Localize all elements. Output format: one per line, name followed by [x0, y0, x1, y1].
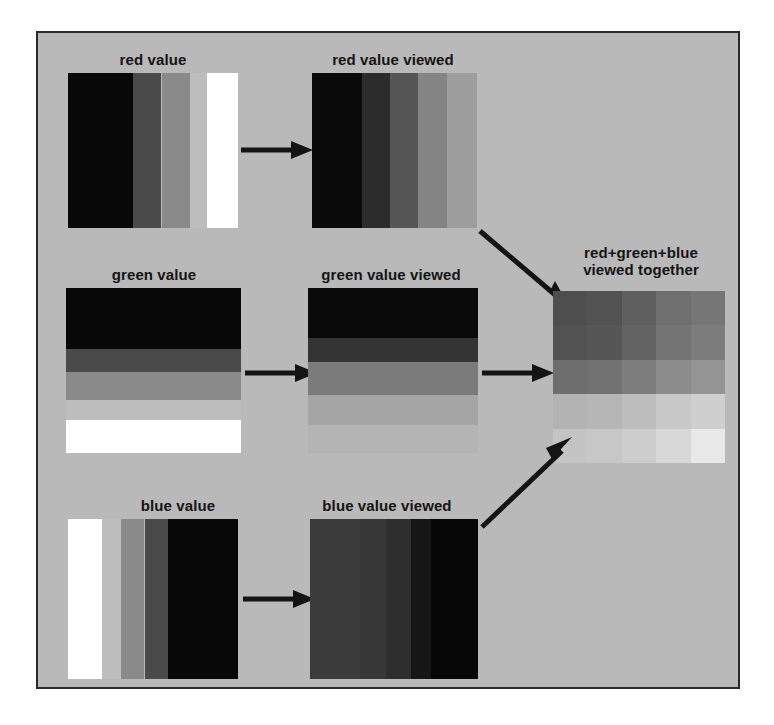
green-value-band-3	[66, 372, 241, 400]
green-value-viewed-label: green value viewed	[281, 266, 501, 283]
green-value-viewed-swatch	[308, 288, 478, 453]
heatmap-cell-2-1	[553, 325, 587, 359]
arrow-green-viewed-to-combined	[482, 360, 554, 386]
red-value-viewed-band-4	[418, 73, 448, 228]
blue-value-band-5	[168, 519, 238, 679]
arrow-blue-viewed-to-combined	[478, 433, 578, 531]
blue-value-label: blue value	[98, 497, 258, 514]
green-value-band-1	[66, 288, 241, 349]
heatmap-cell-1-5	[691, 291, 725, 325]
green-value-viewed-band-3	[308, 362, 478, 395]
blue-value-band-4	[145, 519, 169, 679]
green-value-viewed-band-2	[308, 338, 478, 363]
blue-value-viewed-label: blue value viewed	[282, 497, 492, 514]
green-value-band-2	[66, 349, 241, 372]
red-value-band-3	[162, 73, 191, 228]
heatmap-cell-1-1	[553, 291, 587, 325]
arrow-green-to-green-viewed	[245, 360, 317, 386]
red-value-band-1	[68, 73, 133, 228]
blue-value-swatch	[68, 519, 238, 679]
blue-value-viewed-band-5	[431, 519, 478, 679]
blue-value-viewed-swatch	[310, 519, 478, 679]
red-value-label: red value	[68, 51, 238, 68]
heatmap-cell-2-3	[622, 325, 656, 359]
figure-frame: red value red value viewed green value g…	[36, 31, 740, 689]
heatmap-cell-5-4	[656, 429, 690, 463]
red-value-viewed-band-2	[362, 73, 390, 228]
heatmap-cell-1-2	[587, 291, 621, 325]
heatmap-cell-4-5	[691, 394, 725, 428]
heatmap-cell-5-5	[691, 429, 725, 463]
heatmap-cell-2-2	[587, 325, 621, 359]
heatmap-cell-4-2	[587, 394, 621, 428]
blue-value-band-1	[68, 519, 102, 679]
heatmap-cell-5-3	[622, 429, 656, 463]
combined-label: red+green+blue viewed together	[546, 244, 736, 278]
combined-heatmap	[553, 291, 725, 463]
heatmap-cell-4-4	[656, 394, 690, 428]
blue-value-band-3	[121, 519, 145, 679]
red-value-band-5	[207, 73, 238, 228]
green-value-band-4	[66, 400, 241, 420]
blue-value-viewed-band-4	[411, 519, 431, 679]
green-value-viewed-band-1	[308, 288, 478, 338]
blue-value-viewed-band-1	[310, 519, 360, 679]
heatmap-cell-5-2	[587, 429, 621, 463]
green-value-swatch	[66, 288, 241, 453]
blue-value-band-2	[102, 519, 121, 679]
red-value-swatch	[68, 73, 238, 228]
green-value-label: green value	[64, 266, 244, 283]
heatmap-cell-2-4	[656, 325, 690, 359]
heatmap-cell-2-5	[691, 325, 725, 359]
heatmap-cell-4-1	[553, 394, 587, 428]
green-value-band-5	[66, 420, 241, 453]
heatmap-cell-1-3	[622, 291, 656, 325]
red-value-viewed-band-3	[390, 73, 418, 228]
blue-value-viewed-band-3	[386, 519, 411, 679]
heatmap-cell-3-5	[691, 360, 725, 394]
heatmap-cell-1-4	[656, 291, 690, 325]
red-value-viewed-swatch	[312, 73, 477, 228]
red-value-viewed-label: red value viewed	[293, 51, 493, 68]
red-value-viewed-band-1	[312, 73, 362, 228]
heatmap-cell-3-1	[553, 360, 587, 394]
arrow-red-to-red-viewed	[241, 137, 313, 163]
heatmap-cell-3-2	[587, 360, 621, 394]
red-value-viewed-band-5	[447, 73, 477, 228]
heatmap-cell-4-3	[622, 394, 656, 428]
green-value-viewed-band-5	[308, 425, 478, 453]
heatmap-cell-3-4	[656, 360, 690, 394]
red-value-band-2	[133, 73, 162, 228]
green-value-viewed-band-4	[308, 395, 478, 425]
blue-value-viewed-band-2	[360, 519, 385, 679]
red-value-band-4	[190, 73, 207, 228]
arrow-blue-to-blue-viewed	[243, 586, 315, 612]
heatmap-cell-3-3	[622, 360, 656, 394]
